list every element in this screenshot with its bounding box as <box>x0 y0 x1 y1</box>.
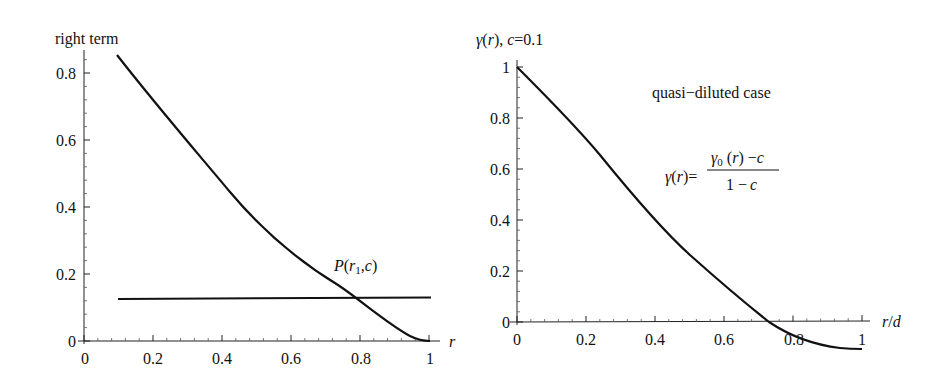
left-y-axis-title: right term <box>55 30 119 48</box>
right-x-axis-title: r/d <box>882 313 902 330</box>
right-x-tick-label: 0.4 <box>645 331 665 348</box>
left-chart: 0 0.2 0.4 0.6 0.8 0 0.2 0.4 0.6 0.8 1 ri… <box>55 30 456 367</box>
left-x-axis-title: r <box>449 333 456 350</box>
right-x-tick-label: 0 <box>513 331 521 348</box>
right-chart: 0 0.2 0.4 0.6 0.8 1 0 0.2 0.4 0.6 0.8 1 … <box>476 31 902 349</box>
right-formula: γ(r)= γ0 (r) −c 1 −c <box>665 149 779 193</box>
left-horizontal-line-series <box>118 298 431 300</box>
left-x-tick-label: 0.2 <box>143 350 163 367</box>
right-y-tick-label: 0.8 <box>490 110 510 127</box>
left-y-tick-label: 0 <box>68 333 76 350</box>
left-x-tick-label: 0.8 <box>351 350 371 367</box>
formula-denominator: 1 −c <box>726 176 757 193</box>
left-y-tick-label: 0.8 <box>56 65 76 82</box>
left-y-tick-labels: 0 0.2 0.4 0.6 0.8 <box>56 65 76 350</box>
left-y-tick-label: 0.6 <box>56 132 76 149</box>
right-y-axis-title: γ(r),c=0.1 <box>476 31 543 49</box>
left-annotation-P: P(r1,c) <box>333 257 377 276</box>
right-x-axis <box>510 321 870 322</box>
left-x-tick-label: 0.4 <box>212 350 232 367</box>
figure: 0 0.2 0.4 0.6 0.8 0 0.2 0.4 0.6 0.8 1 ri… <box>0 0 950 383</box>
formula-numerator: γ0 (r) −c <box>711 149 764 168</box>
right-y-tick-label: 0 <box>502 314 510 331</box>
right-x-tick-label: 1 <box>858 331 866 348</box>
right-y-tick-label: 0.6 <box>490 161 510 178</box>
right-x-tick-label: 0.6 <box>714 331 734 348</box>
right-case-label: quasi−diluted case <box>652 84 771 102</box>
left-x-tick-label: 0 <box>81 350 89 367</box>
right-y-tick-label: 0.4 <box>490 212 510 229</box>
left-y-tick-label: 0.4 <box>56 199 76 216</box>
left-x-ticks <box>84 335 429 341</box>
right-y-tick-label: 1 <box>502 59 510 76</box>
left-y-minor-ticks <box>84 60 87 328</box>
left-x-tick-label: 1 <box>426 350 434 367</box>
formula-lhs: γ(r)= <box>665 168 697 186</box>
left-y-tick-label: 0.2 <box>56 266 76 283</box>
left-x-tick-labels: 0 0.2 0.4 0.6 0.8 1 <box>81 350 434 367</box>
left-x-tick-label: 0.6 <box>281 350 301 367</box>
right-y-ticks <box>517 67 523 322</box>
right-y-tick-label: 0.2 <box>490 263 510 280</box>
right-x-tick-labels: 0 0.2 0.4 0.6 0.8 1 <box>513 331 866 348</box>
right-x-tick-label: 0.2 <box>576 331 596 348</box>
right-gamma-curve-series <box>517 67 862 349</box>
right-y-tick-labels: 0 0.2 0.4 0.6 0.8 1 <box>490 59 510 331</box>
